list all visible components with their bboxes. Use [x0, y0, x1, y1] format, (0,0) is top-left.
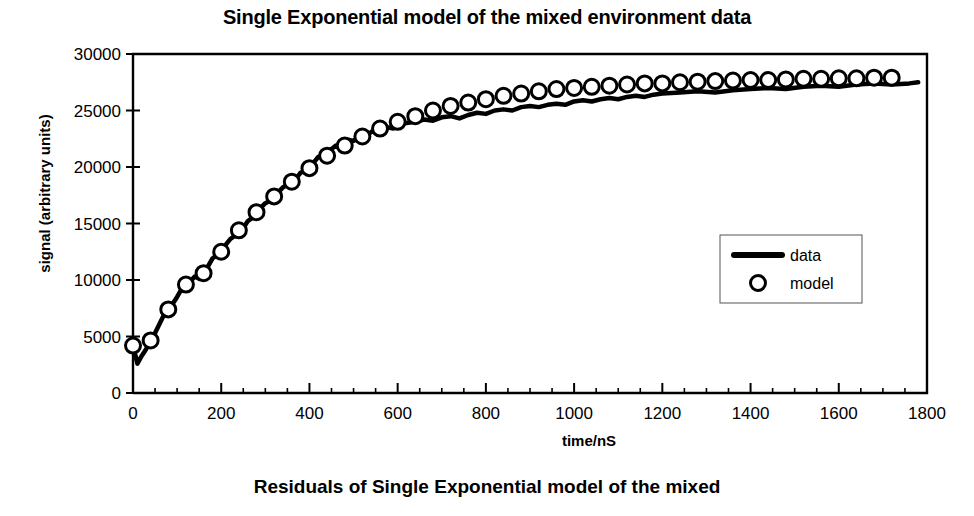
x-tick-label: 1200 — [643, 404, 681, 423]
legend-label-data: data — [790, 247, 821, 264]
model-marker — [620, 77, 635, 92]
model-marker — [814, 71, 829, 86]
x-tick-label: 1800 — [908, 404, 946, 423]
x-tick-label: 800 — [472, 404, 500, 423]
model-marker — [214, 244, 229, 259]
model-marker — [567, 80, 582, 95]
chart-legend: datamodel — [720, 235, 862, 303]
legend-label-model: model — [790, 275, 834, 292]
model-marker — [161, 302, 176, 317]
x-tick-label: 1400 — [732, 404, 770, 423]
x-tick-label: 400 — [295, 404, 323, 423]
model-marker — [725, 73, 740, 88]
model-marker — [231, 223, 246, 238]
x-tick-label: 1000 — [555, 404, 593, 423]
figure-container: Single Exponential model of the mixed en… — [0, 0, 974, 516]
model-marker — [602, 78, 617, 93]
y-axis-label: signal (arbitrary units) — [36, 64, 53, 324]
legend-swatch-model — [751, 276, 766, 291]
legend-box — [720, 235, 862, 303]
data-series-group — [126, 70, 919, 363]
model-marker — [320, 148, 335, 163]
x-tick-label: 200 — [207, 404, 235, 423]
x-tick-label: 600 — [383, 404, 411, 423]
model-marker — [884, 70, 899, 85]
y-tick-label: 30000 — [74, 45, 121, 64]
model-marker — [478, 92, 493, 107]
model-marker — [461, 95, 476, 110]
y-tick-label: 20000 — [74, 158, 121, 177]
model-marker — [355, 129, 370, 144]
model-marker — [584, 79, 599, 94]
model-marker — [249, 205, 264, 220]
y-tick-label: 0 — [112, 384, 121, 403]
model-marker — [743, 72, 758, 87]
x-tick-label: 1600 — [820, 404, 858, 423]
x-axis-label: time/nS — [519, 432, 659, 449]
model-marker — [178, 277, 193, 292]
y-tick-label: 25000 — [74, 102, 121, 121]
model-marker — [126, 338, 141, 353]
model-marker — [514, 86, 529, 101]
model-marker — [867, 70, 882, 85]
x-tick-label: 0 — [128, 404, 137, 423]
bottom-caption: Residuals of Single Exponential model of… — [0, 476, 974, 498]
y-tick-label: 10000 — [74, 271, 121, 290]
chart-plot-area: 0500010000150002000025000300000200400600… — [0, 0, 974, 470]
model-marker — [761, 72, 776, 87]
model-marker — [531, 84, 546, 99]
model-marker — [637, 76, 652, 91]
model-marker — [672, 75, 687, 90]
model-marker — [284, 174, 299, 189]
y-tick-label: 15000 — [74, 215, 121, 234]
model-marker — [390, 114, 405, 129]
model-marker — [549, 82, 564, 97]
model-marker — [196, 266, 211, 281]
model-marker — [796, 71, 811, 86]
model-marker — [337, 138, 352, 153]
model-marker — [302, 161, 317, 176]
model-marker — [655, 76, 670, 91]
model-marker — [496, 88, 511, 103]
model-marker — [373, 121, 388, 136]
model-marker — [831, 71, 846, 86]
model-marker — [778, 72, 793, 87]
model-marker — [267, 189, 282, 204]
model-marker — [708, 74, 723, 89]
y-tick-label: 5000 — [83, 328, 121, 347]
model-marker — [443, 98, 458, 113]
model-marker — [425, 103, 440, 118]
model-marker — [849, 71, 864, 86]
data-line — [133, 82, 918, 363]
model-marker — [408, 109, 423, 124]
model-marker — [143, 333, 158, 348]
model-marker — [690, 74, 705, 89]
